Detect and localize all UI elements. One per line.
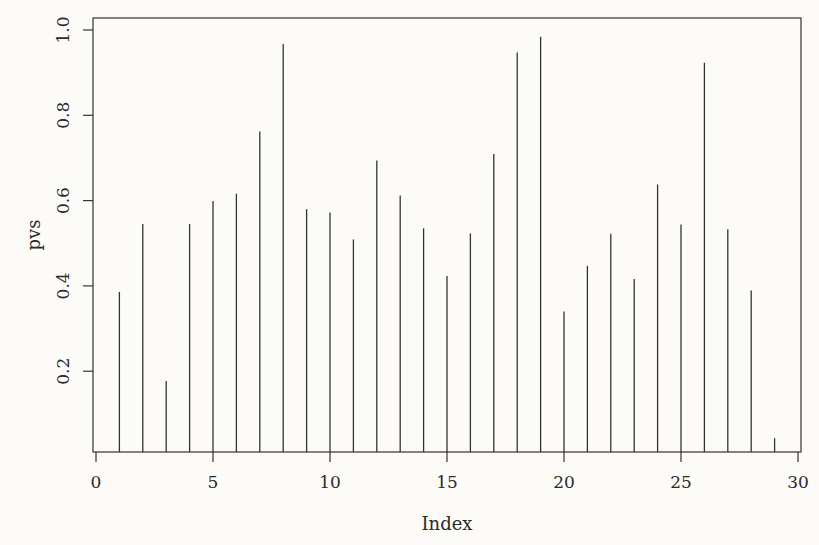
x-axis-title: Index	[421, 513, 472, 534]
x-tick-label: 10	[319, 472, 341, 492]
x-tick-label: 20	[553, 472, 575, 492]
y-tick-label: 0.2	[53, 358, 73, 385]
spikes	[119, 37, 774, 452]
x-tick-label: 0	[91, 472, 102, 492]
y-tick-label: 0.8	[53, 102, 73, 129]
x-axis: 051015202530	[91, 452, 809, 492]
x-tick-label: 30	[787, 472, 809, 492]
y-tick-label: 1.0	[53, 16, 73, 43]
x-tick-label: 5	[208, 472, 219, 492]
y-tick-label: 0.6	[53, 187, 73, 214]
y-tick-label: 0.4	[53, 272, 73, 299]
y-axis: 0.20.40.60.81.0	[53, 16, 93, 384]
x-tick-label: 25	[670, 472, 692, 492]
y-axis-title: pvs	[23, 220, 44, 251]
spike-chart: 051015202530 0.20.40.60.81.0 Index pvs	[0, 0, 819, 545]
x-tick-label: 15	[436, 472, 458, 492]
